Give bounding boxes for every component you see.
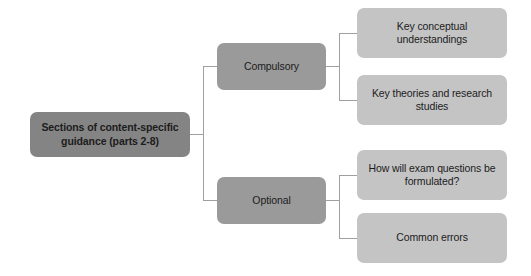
- hierarchy-diagram: Sections of content-specific guidance (p…: [0, 0, 531, 276]
- node-leaf-how-will-exam-questions-be-formulated: How will exam questions be formulated?: [357, 150, 507, 200]
- node-leaf-how-will-exam-questions-be-formulated-label: How will exam questions be formulated?: [363, 162, 501, 189]
- node-leaf-common-errors-label: Common errors: [363, 231, 501, 244]
- node-leaf-key-conceptual-understandings: Key conceptual understandings: [357, 8, 507, 58]
- node-root-sections-of-content-specific-guidance: Sections of content-specific guidance (p…: [30, 112, 190, 157]
- node-root-label: Sections of content-specific guidance (p…: [36, 121, 184, 148]
- node-branch-optional-label: Optional: [223, 194, 320, 207]
- node-branch-compulsory-label: Compulsory: [223, 60, 320, 73]
- node-leaf-common-errors: Common errors: [357, 213, 507, 263]
- node-leaf-key-conceptual-understandings-label: Key conceptual understandings: [363, 20, 501, 47]
- node-branch-optional: Optional: [217, 177, 326, 224]
- node-leaf-key-theories-and-research-studies: Key theories and research studies: [357, 75, 507, 125]
- node-branch-compulsory: Compulsory: [217, 43, 326, 90]
- node-leaf-key-theories-and-research-studies-label: Key theories and research studies: [363, 87, 501, 114]
